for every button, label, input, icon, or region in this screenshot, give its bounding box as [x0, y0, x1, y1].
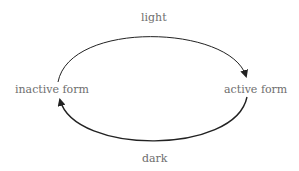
dark-arrow	[60, 97, 247, 141]
dark-label: dark	[142, 153, 168, 164]
active-form-node: active form	[224, 84, 287, 95]
light-label: light	[141, 12, 167, 23]
light-arrow	[58, 37, 246, 82]
inactive-form-node: inactive form	[15, 84, 89, 95]
